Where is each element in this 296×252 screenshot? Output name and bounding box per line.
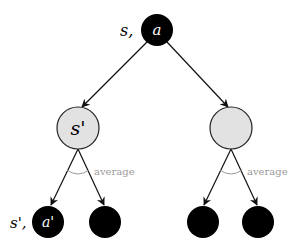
expectimax-diagram: average average s, a s' s', a' xyxy=(0,0,296,252)
leaf1-node-label: a' xyxy=(42,214,54,230)
average-arc-right xyxy=(220,170,242,174)
edge-left-to-leaf1 xyxy=(51,149,78,205)
state-node-right xyxy=(210,107,252,149)
edge-right-to-leaf3 xyxy=(204,149,231,205)
average-arc-left xyxy=(67,170,89,174)
edge-right-to-leaf4 xyxy=(231,149,257,205)
root-node-label: a xyxy=(153,21,162,39)
average-label-left: average xyxy=(94,166,135,177)
edge-left-to-leaf2 xyxy=(78,149,104,205)
average-label-right: average xyxy=(247,166,288,177)
leaf1-prefix-label: s', xyxy=(10,214,27,232)
edge-root-to-left xyxy=(82,42,147,107)
leaf-action-node-2 xyxy=(89,206,121,238)
leaf-action-node-4 xyxy=(242,206,274,238)
root-prefix-label: s, xyxy=(120,21,133,40)
edge-root-to-right xyxy=(167,42,228,107)
state-node-left-label: s' xyxy=(71,117,86,139)
leaf-action-node-3 xyxy=(187,206,219,238)
